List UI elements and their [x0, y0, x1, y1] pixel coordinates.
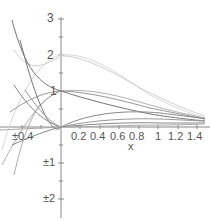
- x-tick-label-neg0.4: ±0.4: [12, 131, 33, 142]
- y-tick-label-neg2: ±2: [43, 193, 55, 204]
- curve-h: [2, 90, 205, 165]
- plot-area: [0, 0, 210, 221]
- x-tick-label-1: 1: [155, 131, 161, 142]
- y-tick-label-2: 2: [47, 49, 54, 61]
- x-tick-label-0.6: 0.6: [110, 131, 125, 142]
- x-tick-label-1.2: 1.2: [168, 131, 183, 142]
- y-tick-label-3: 3: [47, 12, 54, 24]
- x-tick-label-1.4: 1.4: [187, 131, 202, 142]
- x-tick-label-0.4: 0.4: [90, 131, 105, 142]
- x-tick-label-0.2: 0.2: [71, 131, 86, 142]
- x-axis-label: x: [128, 141, 134, 152]
- curve-f: [14, 50, 205, 116]
- curves: [0, 20, 205, 175]
- curve-a: [14, 85, 205, 127]
- y-tick-label-1: 1: [50, 85, 57, 97]
- y-tick-label-neg1: ±1: [43, 157, 55, 168]
